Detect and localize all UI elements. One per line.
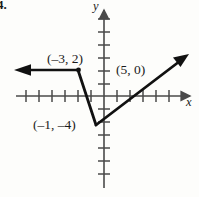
graph-figure: 4. xyxy=(0,0,199,197)
y-axis xyxy=(98,10,110,188)
graph-left-arrowhead xyxy=(14,64,31,76)
point-label-minus1-minus4: (–1, –4) xyxy=(33,117,76,133)
x-axis-label: x xyxy=(186,95,192,110)
y-axis-label: y xyxy=(93,0,99,14)
point-label-minus3-2: (–3, 2) xyxy=(47,51,83,67)
point-label-5-0: (5, 0) xyxy=(116,62,145,78)
graph-corner-point xyxy=(76,68,81,73)
coordinate-plane xyxy=(0,0,199,197)
function-graph xyxy=(14,54,189,125)
graph-descending-segment xyxy=(78,70,96,125)
x-axis xyxy=(16,90,190,102)
